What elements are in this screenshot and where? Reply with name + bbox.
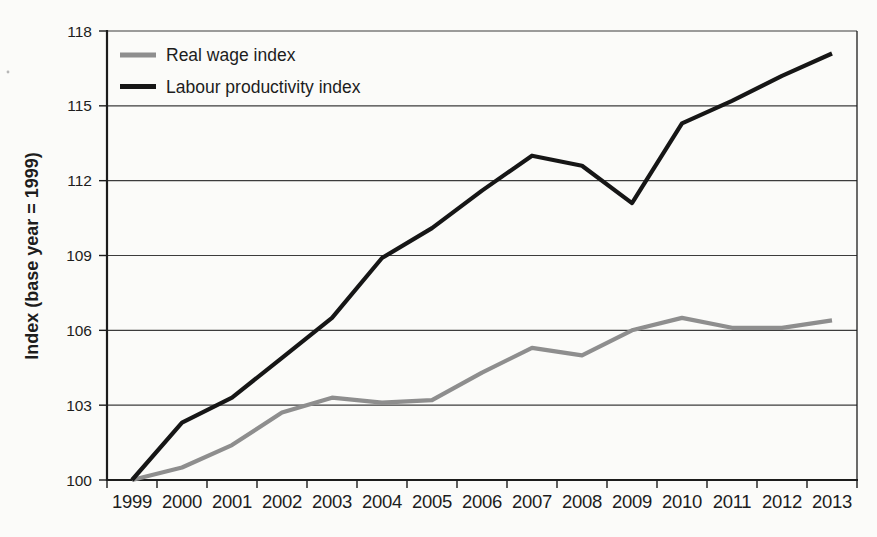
x-tick-label: 2005 xyxy=(412,491,452,512)
x-tick-label: 2000 xyxy=(162,491,202,512)
y-tick-label: 109 xyxy=(66,247,92,264)
y-axis-title: Index (base year = 1999) xyxy=(22,152,42,360)
x-tick-label: 2002 xyxy=(262,491,302,512)
x-tick-label: 2006 xyxy=(462,491,502,512)
x-tick-label: 2013 xyxy=(812,491,852,512)
chart-figure: 1001031061091121151181999200020012002200… xyxy=(0,0,877,537)
x-tick-label: 2004 xyxy=(362,491,402,512)
x-tick-label: 2001 xyxy=(212,491,252,512)
y-tick-label: 100 xyxy=(66,472,92,489)
scan-speck xyxy=(7,71,10,74)
x-tick-label: 2003 xyxy=(312,491,352,512)
x-tick-label: 2012 xyxy=(762,491,802,512)
y-tick-label: 115 xyxy=(67,97,92,114)
x-tick-label: 2008 xyxy=(562,491,602,512)
x-tick-label: 2010 xyxy=(662,491,702,512)
y-tick-label: 106 xyxy=(66,322,92,339)
legend-label-real-wage-index: Real wage index xyxy=(166,45,296,65)
x-tick-label: 2007 xyxy=(512,491,552,512)
x-tick-label: 1999 xyxy=(112,491,152,512)
y-tick-label: 112 xyxy=(67,172,92,189)
series-line-labour-productivity-index xyxy=(132,54,832,481)
x-tick-label: 2009 xyxy=(612,491,652,512)
x-tick-label: 2011 xyxy=(713,491,752,512)
series-line-real-wage-index xyxy=(132,318,832,480)
y-tick-label: 118 xyxy=(67,23,92,40)
legend-label-labour-productivity-index: Labour productivity index xyxy=(166,77,361,97)
line-chart: 1001031061091121151181999200020012002200… xyxy=(0,0,877,537)
y-tick-label: 103 xyxy=(66,397,92,414)
